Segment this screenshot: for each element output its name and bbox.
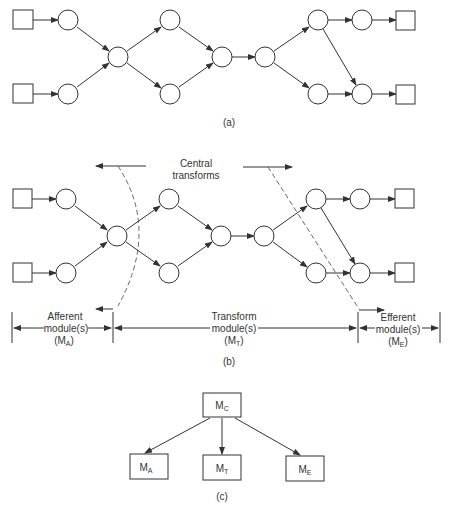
process-bubble (255, 47, 275, 67)
sink-square (396, 11, 415, 30)
svg-text:(ME): (ME) (388, 336, 408, 348)
svg-text:(MA): (MA) (54, 335, 74, 347)
process-bubble (306, 263, 326, 283)
svg-text:Transform: Transform (211, 311, 256, 322)
central-label-line1: Central (180, 158, 212, 169)
process-bubble (212, 47, 232, 67)
process-bubble (160, 84, 180, 104)
process-bubble (56, 189, 76, 209)
process-bubble (160, 10, 180, 30)
right-boundary-line (268, 167, 359, 309)
svg-text:module(s): module(s) (212, 323, 256, 334)
process-bubble (58, 10, 78, 30)
svg-text:Efferent: Efferent (381, 312, 416, 323)
diagram-c: MC MA MT ME (c) (130, 393, 324, 502)
caption-c: (c) (216, 491, 228, 502)
sink-square (396, 85, 415, 104)
process-bubble (56, 263, 76, 283)
process-bubble (58, 84, 78, 104)
caption-b: (b) (223, 356, 235, 367)
efferent-section-label: Efferent module(s) (ME) (376, 312, 420, 348)
diagram-b: Central transforms (12, 158, 440, 367)
process-bubble (159, 189, 179, 209)
process-bubble (350, 189, 370, 209)
sink-square (395, 189, 414, 208)
svg-text:Afferent: Afferent (48, 311, 83, 322)
source-square (13, 84, 33, 103)
process-bubble (308, 10, 328, 30)
sink-square (395, 263, 414, 282)
svg-text:module(s): module(s) (376, 324, 420, 335)
transform-section-label: Transform module(s) (MT) (211, 311, 256, 347)
process-bubble (306, 189, 326, 209)
afferent-section-label: Afferent module(s) (MA) (44, 311, 88, 347)
diagram-a: (a) (13, 10, 415, 128)
process-bubble (350, 263, 370, 283)
caption-a: (a) (223, 117, 235, 128)
source-square (13, 189, 32, 208)
process-bubble (159, 263, 179, 283)
svg-text:(MT): (MT) (224, 335, 243, 347)
source-square (13, 10, 33, 29)
process-bubble (308, 84, 328, 104)
process-bubble (352, 10, 372, 30)
process-bubble (211, 226, 231, 246)
process-bubble (352, 84, 372, 104)
process-bubble (254, 226, 274, 246)
figure: (a) Central transforms (0, 0, 455, 515)
central-label-line2: transforms (172, 170, 219, 181)
source-square (13, 263, 32, 282)
svg-text:module(s): module(s) (44, 323, 88, 334)
process-bubble (107, 226, 127, 246)
process-bubble (108, 47, 128, 67)
